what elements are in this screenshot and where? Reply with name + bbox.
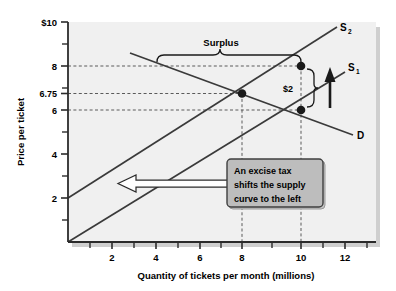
point-old-equilibrium (297, 106, 306, 115)
excise-tax-supply-demand-figure: $10 8 6.75 6 4 2 2 4 6 8 10 12 Price per… (0, 0, 396, 291)
callout-line-2: shifts the supply (234, 180, 306, 190)
y-tick-label-675: 6.75 (39, 89, 57, 99)
x-tick-label-8: 8 (239, 252, 244, 263)
x-tick-label-4: 4 (153, 252, 159, 263)
demand-curve-d-label: D (357, 130, 364, 141)
supply-curve-s2-label: S (340, 22, 347, 33)
chart-svg: $10 8 6.75 6 4 2 2 4 6 8 10 12 Price per… (0, 0, 396, 291)
point-quantity-supplied-at-price-8 (297, 62, 306, 71)
surplus-label: Surplus (203, 37, 238, 48)
excise-tax-callout: An excise tax shifts the supply curve to… (227, 159, 325, 209)
callout-line-3: curve to the left (234, 194, 301, 204)
tax-amount-label: $2 (283, 84, 293, 94)
x-tick-label-10: 10 (296, 252, 307, 263)
supply-curve-s1-subscript: 1 (356, 68, 360, 75)
y-tick-label-8: 8 (52, 61, 57, 72)
y-tick-label-4: 4 (52, 149, 58, 160)
plot-area-background (68, 22, 376, 242)
x-tick-label-2: 2 (109, 252, 114, 263)
supply-curve-s1-label: S (348, 62, 355, 73)
x-axis-title: Quantity of tickets per month (millions) (138, 270, 315, 281)
y-axis-major-ticks (61, 22, 68, 198)
x-tick-label-12: 12 (340, 252, 351, 263)
x-tick-label-6: 6 (197, 252, 202, 263)
point-new-equilibrium (238, 89, 247, 98)
y-tick-label-10: $10 (41, 17, 57, 28)
y-tick-label-2: 2 (52, 193, 57, 204)
supply-curve-s2-subscript: 2 (348, 28, 352, 35)
y-tick-label-6: 6 (52, 106, 57, 116)
y-axis-title: Price per ticket (15, 97, 26, 166)
callout-line-1: An excise tax (234, 166, 292, 176)
